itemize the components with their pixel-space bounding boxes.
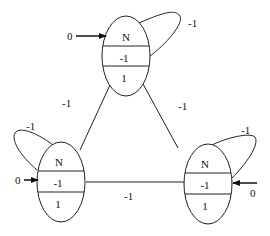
node-bottom-left: 1 [55, 198, 61, 210]
node-mid-top: -1 [119, 52, 128, 64]
edge-weight-left-right: -1 [124, 190, 133, 202]
self-loop-weight-top: -1 [188, 17, 197, 29]
input-value-left: 0 [15, 174, 21, 186]
node-mid-right: -1 [200, 179, 209, 191]
input-value-right: 0 [250, 187, 256, 199]
self-loop-weight-left: -1 [26, 120, 35, 132]
node-bottom-top: 1 [121, 72, 127, 84]
node-title-top: N [122, 31, 130, 43]
node-right: -1 N -1 1 0 [184, 124, 257, 224]
edge-top-right [143, 84, 178, 148]
self-loop-weight-right: -1 [241, 124, 250, 136]
edge-weight-top-right: -1 [178, 100, 187, 112]
edge-top-left [80, 85, 110, 150]
edge-weight-top-left: -1 [62, 97, 71, 109]
node-left: -1 N -1 1 0 [14, 120, 85, 222]
node-title-left: N [55, 156, 63, 168]
network-diagram: -1 -1 -1 -1 N -1 1 0 -1 N -1 1 0 -1 N -1… [0, 0, 270, 236]
node-bottom-right: 1 [202, 200, 208, 212]
node-top: -1 N -1 1 0 [67, 12, 197, 96]
node-mid-left: -1 [53, 177, 62, 189]
node-title-right: N [201, 158, 209, 170]
input-value-top: 0 [67, 30, 73, 42]
